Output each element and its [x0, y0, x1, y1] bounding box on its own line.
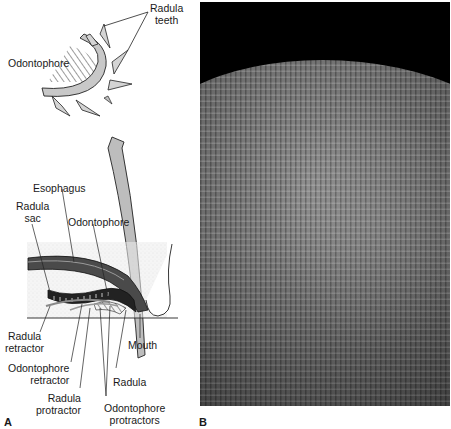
label-odontophore-protractors-line2: protractors [104, 414, 165, 426]
label-odontophore-top: Odontophore [8, 57, 69, 69]
panel-letter-b: B [199, 416, 207, 428]
label-radula-protractor-line1: Radula [36, 392, 81, 404]
label-esophagus: Esophagus [33, 182, 86, 194]
label-radula-teeth-line2: teeth [150, 14, 183, 26]
label-radula-retractor-line1: Radula [5, 330, 44, 342]
panel-a-diagram: Radula teeth Odontophore Esophagus Radul… [0, 0, 200, 429]
label-mouth: Mouth [128, 339, 157, 351]
label-odontophore-protractors: Odontophore protractors [104, 402, 165, 426]
label-radula-teeth: Radula teeth [150, 2, 183, 26]
label-odontophore-section: Odontophore [68, 216, 129, 228]
label-odontophore-retractor-line2: retractor [8, 374, 69, 386]
label-radula-sac-line2: sac [16, 212, 49, 224]
label-odontophore-protractors-line1: Odontophore [104, 402, 165, 414]
label-radula: Radula [113, 376, 146, 388]
label-radula-retractor: Radula retractor [5, 330, 44, 354]
label-radula-retractor-line2: retractor [5, 342, 44, 354]
panel-letter-a: A [4, 416, 12, 428]
label-odontophore-retractor: Odontophore retractor [8, 362, 69, 386]
label-radula-sac: Radula sac [16, 200, 49, 224]
label-radula-teeth-line1: Radula [150, 2, 183, 14]
radula-teeth-surface-image [200, 60, 450, 406]
label-odontophore-retractor-line1: Odontophore [8, 362, 69, 374]
panel-b-radula-micrograph [200, 2, 450, 406]
label-radula-sac-line1: Radula [16, 200, 49, 212]
label-radula-protractor-line2: protractor [36, 404, 81, 416]
label-radula-protractor: Radula protractor [36, 392, 81, 416]
